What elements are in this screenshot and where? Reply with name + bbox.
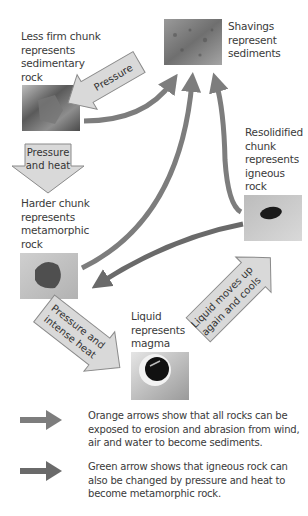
- magma-label-line: represents: [131, 324, 185, 338]
- legend-orange-text: Orange arrows show that all rocks can be…: [88, 409, 300, 450]
- magma-label-line: magma: [131, 337, 185, 351]
- igneous-label-line: chunk: [245, 140, 303, 154]
- igneous-label-line: represents: [245, 153, 303, 167]
- igneous-label-line: Resolidified: [245, 126, 303, 140]
- igneous-label-line: rock: [245, 180, 303, 194]
- sedimentary-label-line: rock: [21, 71, 101, 85]
- harder-chunk-photo: [20, 253, 78, 299]
- legend-green-text: Green arrow shows that igneous rock can …: [88, 460, 300, 501]
- igneous-label: Resolidified chunk represents igneous ro…: [245, 126, 303, 194]
- pressure-heat-label-line1: Pressure: [27, 147, 70, 158]
- pressure-intense-heat-block-arrow: Pressure and intense heat: [29, 289, 135, 388]
- shavings-photo: [164, 19, 222, 65]
- sedimentary-label-line: represents: [21, 44, 101, 58]
- metamorphic-label-line: rock: [21, 238, 90, 252]
- metamorphic-label: Harder chunk represents metamorphic rock: [21, 197, 90, 251]
- pressure-heat-block-arrow: Pressure and heat: [12, 144, 84, 193]
- pressure-heat-label-line2: and heat: [26, 160, 71, 171]
- legend-green: Green arrow shows that igneous rock can …: [20, 460, 300, 501]
- sediments-label-line: sediments: [228, 47, 281, 61]
- legend-orange: Orange arrows show that all rocks can be…: [20, 409, 300, 450]
- igneous-label-line: igneous: [245, 167, 303, 181]
- sedimentary-label: Less firm chunk represents sedimentary r…: [21, 30, 101, 84]
- liquid-photo: [131, 352, 189, 400]
- sedimentary-label-line: Less firm chunk: [21, 30, 101, 44]
- resolidified-chunk-photo: [244, 195, 302, 241]
- green-arrow-icon: [20, 460, 64, 482]
- erosion-arrows: [82, 82, 241, 268]
- sedimentary-label-line: sedimentary: [21, 57, 101, 71]
- sediments-label: Shavings represent sediments: [228, 20, 281, 61]
- magma-label-line: Liquid: [131, 310, 185, 324]
- igneous-to-metamorphic-arrow: [100, 224, 243, 283]
- sediments-label-line: Shavings: [228, 20, 281, 34]
- liquid-moves-up-block-arrow: Liquid moves up again and cools: [180, 240, 288, 348]
- magma-label: Liquid represents magma: [131, 310, 185, 351]
- metamorphic-label-line: Harder chunk: [21, 197, 90, 211]
- metamorphic-label-line: represents: [21, 211, 90, 225]
- orange-arrow-icon: [20, 409, 64, 431]
- sediments-label-line: represent: [228, 34, 281, 48]
- igneous-to-sediments-arrow: [216, 82, 241, 212]
- metamorphic-label-line: metamorphic: [21, 224, 90, 238]
